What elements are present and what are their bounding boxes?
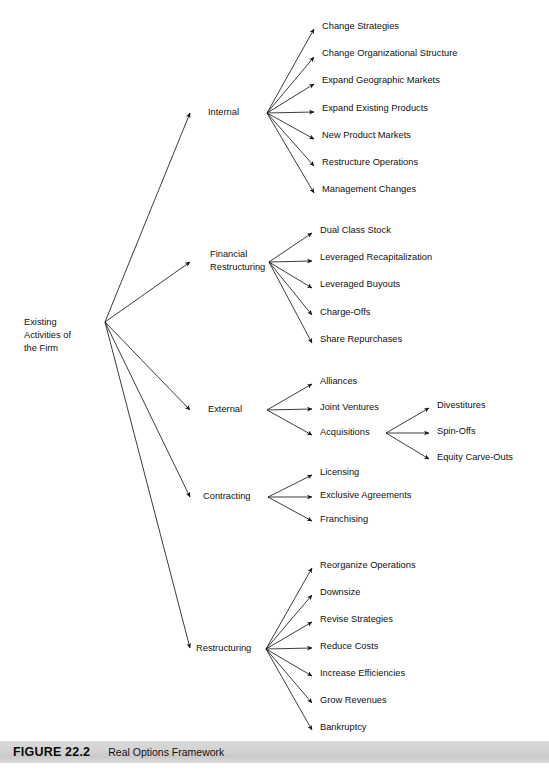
real-options-framework-diagram: Existing Activities of the Firm Internal… <box>0 0 549 771</box>
edge-contracting-leaf-0 <box>268 475 312 497</box>
leaf-internal-5: Restructure Operations <box>322 157 418 167</box>
leaf-external-2: Acquisitions <box>320 427 370 437</box>
edge-restructuring-leaf-3 <box>266 648 312 649</box>
leaf-external-0: Alliances <box>320 376 358 386</box>
leaf-acquisitions-2: Equity Carve-Outs <box>437 452 513 462</box>
branch-label-external: External <box>208 404 242 414</box>
leaf-contracting-2: Franchising <box>320 514 368 524</box>
leaf-external-1: Joint Ventures <box>320 402 379 412</box>
branch-financial-restructuring: Financial Restructuring Dual Class Stock… <box>210 225 432 344</box>
branch-restructuring: Restructuring Reorganize Operations Down… <box>196 560 416 732</box>
leaf-restructuring-5: Grow Revenues <box>320 695 387 705</box>
branch-label-contracting: Contracting <box>203 491 251 501</box>
leaf-restructuring-3: Reduce Costs <box>320 641 379 651</box>
edge-external-leaf-0 <box>267 384 312 410</box>
leaf-internal-0: Change Strategies <box>322 21 399 31</box>
branch-external: External Alliances Joint Ventures Acquis… <box>208 376 513 462</box>
edge-root-contracting <box>105 322 190 497</box>
root-label-line3: the Firm <box>24 343 58 353</box>
edge-internal-leaf-3 <box>267 112 314 113</box>
edge-acquisitions-leaf-2 <box>386 433 429 459</box>
leaf-restructuring-0: Reorganize Operations <box>320 560 416 570</box>
figure-container: Existing Activities of the Firm Internal… <box>0 0 549 771</box>
leaf-internal-1: Change Organizational Structure <box>322 48 457 58</box>
edge-internal-leaf-0 <box>267 29 314 113</box>
edge-financial-leaf-3 <box>269 262 312 315</box>
edge-root-restructuring <box>105 322 190 648</box>
branch-label-financial-restructuring-line2: Restructuring <box>210 262 265 272</box>
figure-number: FIGURE 22.2 <box>13 745 90 759</box>
leaf-restructuring-1: Downsize <box>320 587 360 597</box>
leaf-restructuring-6: Bankruptcy <box>320 722 367 732</box>
root-edges <box>105 113 190 648</box>
root-node: Existing Activities of the Firm <box>24 317 71 353</box>
edge-external-leaf-1 <box>267 409 312 410</box>
edge-financial-leaf-4 <box>269 262 312 343</box>
edge-restructuring-leaf-5 <box>266 649 312 703</box>
leaf-financial-1: Leveraged Recapitalization <box>320 252 432 262</box>
leaf-internal-4: New Product Markets <box>322 130 411 140</box>
edge-restructuring-leaf-1 <box>266 595 312 649</box>
edge-internal-leaf-6 <box>267 113 314 193</box>
edge-restructuring-leaf-2 <box>266 622 312 649</box>
edge-contracting-leaf-2 <box>268 497 312 521</box>
leaf-financial-0: Dual Class Stock <box>320 225 391 235</box>
edge-restructuring-leaf-4 <box>266 649 312 676</box>
leaf-contracting-1: Exclusive Agreements <box>320 490 412 500</box>
leaf-acquisitions-1: Spin-Offs <box>437 426 476 436</box>
edge-internal-leaf-1 <box>267 57 314 113</box>
leaf-internal-2: Expand Geographic Markets <box>322 75 440 85</box>
branch-label-restructuring: Restructuring <box>196 643 251 653</box>
branch-contracting: Contracting Licensing Exclusive Agreemen… <box>203 467 412 524</box>
leaf-restructuring-4: Increase Efficiencies <box>320 668 405 678</box>
edge-root-external <box>105 322 190 410</box>
edge-acquisitions-leaf-0 <box>386 408 429 433</box>
edge-financial-leaf-1 <box>269 261 312 262</box>
edge-internal-leaf-4 <box>267 113 314 139</box>
edge-root-internal <box>105 113 190 322</box>
branch-label-internal: Internal <box>208 107 239 117</box>
leaf-restructuring-2: Revise Strategies <box>320 614 393 624</box>
edge-financial-leaf-0 <box>269 233 312 262</box>
leaf-financial-2: Leveraged Buyouts <box>320 279 400 289</box>
leaf-financial-3: Charge-Offs <box>320 307 371 317</box>
root-label-line2: Activities of <box>24 330 71 340</box>
branch-internal: Internal Change Strategies Change Organi… <box>208 21 457 194</box>
leaf-contracting-0: Licensing <box>320 467 359 477</box>
branch-label-financial-restructuring-line1: Financial <box>210 249 247 259</box>
edge-restructuring-leaf-0 <box>266 568 312 649</box>
edge-internal-leaf-5 <box>267 113 314 166</box>
edge-internal-leaf-2 <box>267 84 314 113</box>
root-label-line1: Existing <box>24 317 57 327</box>
figure-title: Real Options Framework <box>108 746 224 758</box>
leaf-financial-4: Share Repurchases <box>320 334 403 344</box>
subbranch-acquisitions: Divestitures Spin-Offs Equity Carve-Outs <box>386 400 513 462</box>
edge-external-leaf-2 <box>267 410 312 435</box>
edge-restructuring-leaf-6 <box>266 649 312 730</box>
leaf-acquisitions-0: Divestitures <box>437 400 486 410</box>
figure-caption-bar: FIGURE 22.2 Real Options Framework <box>0 741 549 763</box>
edge-root-financial-restructuring <box>105 262 190 322</box>
leaf-internal-6: Management Changes <box>322 184 416 194</box>
leaf-internal-3: Expand Existing Products <box>322 103 428 113</box>
